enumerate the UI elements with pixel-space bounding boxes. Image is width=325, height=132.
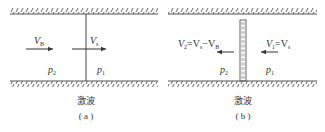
shock-caption: 激波 [77, 95, 95, 106]
shock-wave-band [240, 20, 246, 81]
top-wall [10, 8, 158, 14]
panel-label: ( a ) [79, 111, 94, 121]
shock-velocity-label: Vs [90, 35, 99, 47]
gas-velocity-label: VB [34, 35, 44, 47]
shock-caption: 激波 [234, 95, 252, 106]
panel-b: V2=Vs−VB V1=Vs p2 p1 激波 ( b ) [168, 8, 317, 121]
bottom-wall [10, 81, 158, 87]
downstream-velocity-label: V2=Vs−VB [178, 38, 219, 50]
panel-a: VB Vs p2 p1 激波 ( a ) [10, 8, 158, 121]
pressure-p2-label: p2 [47, 64, 56, 76]
bottom-wall [168, 81, 317, 87]
pressure-p2-label: p2 [219, 64, 228, 76]
pressure-p1-label: p1 [96, 64, 105, 76]
pressure-p1-label: p1 [265, 64, 274, 76]
top-wall [168, 8, 317, 14]
upstream-velocity-label: V1=Vs [266, 38, 291, 50]
panel-label: ( b ) [236, 111, 251, 121]
shock-wave-diagram: VB Vs p2 p1 激波 ( a ) V2=Vs−VB V1 [0, 0, 325, 132]
